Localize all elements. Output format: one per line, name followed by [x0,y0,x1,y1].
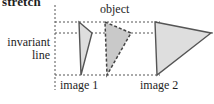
invariant-line-label: invariantline [0,36,50,61]
stretch-transformation-figure: stretch object invariantline image 1 ima… [0,0,214,104]
image1-triangle [79,22,92,75]
invariant-line-label-line2: line [0,49,50,62]
object-triangle [105,22,131,75]
figure-title: stretch [2,0,41,9]
object-label: object [100,3,129,16]
invariant-line-label-line1: invariant [7,35,50,49]
image2-triangle [155,22,211,75]
image1-label: image 1 [60,79,98,92]
image2-label: image 2 [140,79,178,92]
